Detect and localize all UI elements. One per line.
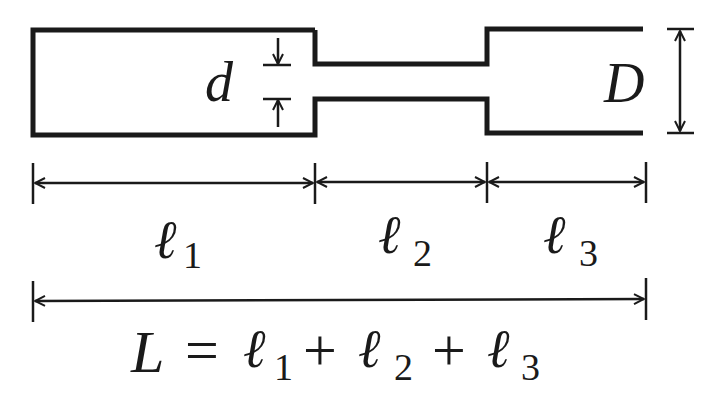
total-length-dimension bbox=[33, 278, 646, 322]
l3-symbol: ℓ bbox=[543, 205, 566, 265]
equation-l1-symbol: ℓ bbox=[243, 319, 266, 379]
equation-equals: = bbox=[185, 317, 219, 383]
equation-l3-subscript: 3 bbox=[521, 346, 540, 388]
l1-symbol: ℓ bbox=[154, 210, 177, 270]
equation-plus-1: + bbox=[303, 317, 337, 383]
equation-l1-subscript: 1 bbox=[274, 346, 293, 388]
l3-subscript: 3 bbox=[579, 232, 598, 274]
equation-L: L bbox=[130, 319, 164, 385]
total-length-equation: L = ℓ 1 + ℓ 2 + ℓ 3 bbox=[130, 317, 540, 388]
l2-symbol: ℓ bbox=[378, 205, 401, 265]
shaft-outline bbox=[33, 29, 643, 135]
equation-l3-symbol: ℓ bbox=[487, 319, 510, 379]
segment-label-l1: ℓ 1 bbox=[154, 210, 202, 276]
small-diameter-dimension bbox=[263, 38, 291, 127]
shaft-neck-top-edge bbox=[315, 29, 643, 64]
segment-dimensions bbox=[33, 162, 646, 204]
shaft-top-edge bbox=[33, 30, 643, 135]
segment-label-l2: ℓ 2 bbox=[378, 205, 432, 274]
stepped-shaft-diagram: d D ℓ 1 ℓ 2 ℓ 3 L = ℓ 1 bbox=[0, 0, 722, 410]
large-diameter-dimension bbox=[667, 29, 694, 133]
equation-l2-subscript: 2 bbox=[394, 346, 413, 388]
equation-l2-symbol: ℓ bbox=[358, 319, 381, 379]
equation-plus-2: + bbox=[432, 317, 466, 383]
l2-subscript: 2 bbox=[413, 232, 432, 274]
segment-label-l3: ℓ 3 bbox=[543, 205, 598, 274]
l1-subscript: 1 bbox=[183, 234, 202, 276]
large-diameter-label: D bbox=[603, 52, 644, 114]
small-diameter-label: d bbox=[205, 51, 234, 113]
